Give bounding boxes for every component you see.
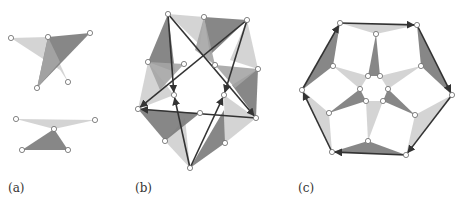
- vertex-node: [87, 30, 92, 35]
- vertex-node: [449, 92, 454, 97]
- shaded-triangle: [329, 89, 366, 113]
- vertex-node: [365, 73, 370, 78]
- vertex-node: [412, 112, 417, 117]
- diagram-canvas: [0, 0, 460, 209]
- vertex-node: [244, 17, 249, 22]
- vertex-node: [165, 11, 170, 16]
- shaded-triangle: [380, 66, 421, 89]
- vertex-node: [253, 115, 258, 120]
- shaded-triangle: [366, 101, 383, 141]
- vertex-node: [162, 138, 167, 143]
- vertex-node: [212, 62, 217, 67]
- vertex-node: [365, 138, 370, 143]
- vertex-node: [330, 63, 335, 68]
- vertex-node: [385, 86, 390, 91]
- vertex-node: [34, 85, 39, 90]
- vertex-node: [403, 152, 408, 157]
- vertex-node: [363, 98, 368, 103]
- vertex-node: [222, 140, 227, 145]
- figure-a: [8, 30, 97, 152]
- panel-label-b: (b): [135, 181, 152, 195]
- panel-label-c: (c): [298, 181, 314, 195]
- vertex-node: [377, 73, 382, 78]
- shaded-triangle: [333, 66, 368, 89]
- vertex-node: [373, 31, 378, 36]
- vertex-node: [145, 59, 150, 64]
- vertex-node: [187, 165, 192, 170]
- vertex-node: [51, 126, 56, 131]
- figure-b: [135, 11, 260, 170]
- vertex-node: [19, 147, 24, 152]
- vertex-node: [65, 79, 70, 84]
- vertex-node: [299, 87, 304, 92]
- vertex-node: [45, 34, 50, 39]
- vertex-node: [135, 106, 140, 111]
- vertex-node: [201, 14, 206, 19]
- shaded-triangle: [190, 110, 225, 168]
- vertex-node: [181, 61, 186, 66]
- vertex-node: [8, 35, 13, 40]
- vertex-node: [65, 147, 70, 152]
- shaded-triangle: [22, 129, 68, 150]
- vertex-node: [418, 63, 423, 68]
- panel-label-a: (a): [8, 181, 25, 195]
- shaded-triangle: [368, 34, 380, 76]
- vertex-node: [13, 116, 18, 121]
- vertex-node: [197, 110, 202, 115]
- vertex-node: [255, 66, 260, 71]
- vertex-node: [357, 86, 362, 91]
- vertex-node: [380, 98, 385, 103]
- shaded-triangle: [383, 89, 415, 115]
- vertex-node: [337, 20, 342, 25]
- vertex-node: [326, 110, 331, 115]
- vertex-node: [329, 149, 334, 154]
- vertex-node: [414, 22, 419, 27]
- vertex-node: [92, 117, 97, 122]
- figure-c: [299, 20, 454, 157]
- vertex-node: [221, 92, 226, 97]
- vertex-node: [171, 92, 176, 97]
